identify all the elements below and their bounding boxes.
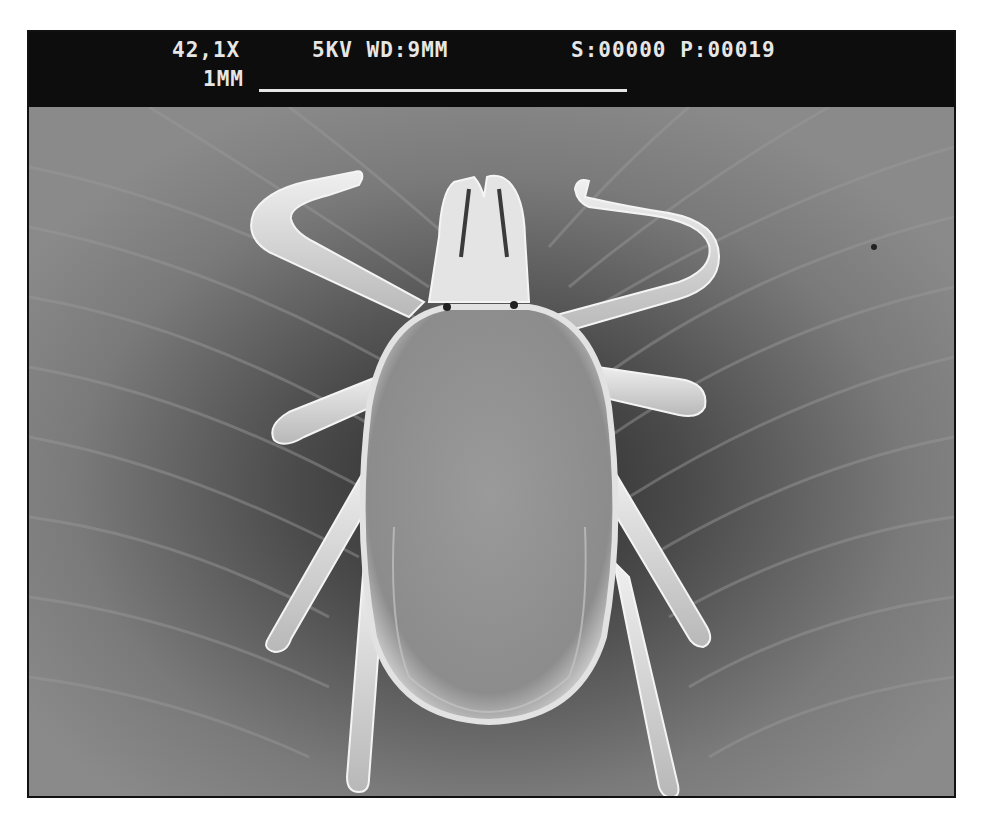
tick-body [363, 307, 616, 722]
scale-bar [259, 89, 627, 92]
scale-bar-label: 1MM [203, 67, 244, 91]
specimen-image [29, 107, 954, 798]
magnification-label: 42,1X [172, 38, 240, 62]
debris-speck [871, 244, 877, 250]
frame-counter-label: S:00000 P:00019 [571, 38, 776, 62]
tick-illustration [29, 107, 954, 798]
sem-data-bar: 42,1X 5KV WD:9MM S:00000 P:00019 1MM [29, 32, 954, 107]
cornua-left [443, 303, 451, 311]
cornua-right [510, 301, 518, 309]
voltage-working-distance-label: 5KV WD:9MM [312, 38, 448, 62]
micrograph-frame: 42,1X 5KV WD:9MM S:00000 P:00019 1MM [27, 30, 956, 798]
